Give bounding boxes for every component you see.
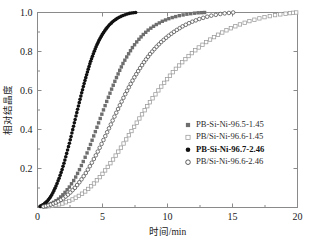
data-point: [227, 11, 231, 15]
data-point: [204, 40, 207, 43]
data-point: [121, 62, 124, 65]
data-point: [117, 150, 120, 153]
data-point: [74, 175, 77, 178]
legend-marker-filled-circle: [186, 148, 191, 153]
legend-label: PB/Si-Ni-96.6-1.45: [196, 131, 263, 141]
data-point: [174, 67, 177, 70]
legend-item-1[interactable]: PB-Si-Ni-96.5-1.45: [186, 119, 264, 129]
data-point: [100, 112, 103, 115]
data-point: [102, 108, 105, 111]
data-point: [78, 168, 81, 171]
legend-label: PB-Si-Ni-96.5-1.45: [196, 119, 264, 129]
data-point: [120, 100, 124, 104]
data-point: [203, 11, 206, 14]
data-point: [106, 165, 109, 168]
data-point: [80, 164, 83, 167]
y-tick-label: 0.2: [20, 163, 33, 174]
data-point: [88, 164, 92, 168]
data-point: [263, 15, 266, 18]
data-point: [146, 105, 149, 108]
data-point: [268, 14, 271, 17]
data-point: [61, 165, 65, 169]
data-point: [102, 138, 106, 142]
data-point: [194, 49, 197, 52]
data-point: [189, 12, 192, 15]
data-point: [103, 169, 106, 172]
data-point: [112, 84, 115, 87]
data-point: [214, 13, 218, 17]
y-tick-label: 0.4: [20, 124, 33, 135]
data-point: [157, 89, 160, 92]
data-point: [73, 121, 77, 125]
data-point: [168, 74, 171, 77]
data-point: [100, 142, 104, 146]
data-point: [90, 139, 93, 142]
data-point: [113, 115, 117, 119]
x-axis-title: 时间/min: [149, 226, 187, 237]
data-point: [83, 156, 86, 159]
data-point: [198, 17, 202, 21]
data-point: [90, 161, 94, 165]
y-axis-title: 相对结晶度: [2, 85, 13, 135]
data-point: [65, 152, 69, 156]
data-point: [114, 111, 118, 115]
data-point: [253, 18, 256, 21]
data-point: [69, 135, 73, 139]
chart-legend: PB-Si-Ni-96.5-1.45PB/Si-Ni-96.6-1.45PB-S…: [186, 119, 265, 166]
data-point: [107, 96, 110, 99]
data-point: [273, 13, 276, 16]
legend-label: PB-Si-Ni-96.7-2.46: [196, 144, 265, 154]
data-point: [216, 33, 219, 36]
data-point: [155, 23, 158, 26]
data-point: [60, 168, 64, 172]
data-point: [62, 161, 66, 165]
data-point: [79, 94, 83, 98]
data-point: [197, 46, 200, 49]
data-point: [229, 27, 232, 30]
data-point: [221, 31, 224, 34]
legend-item-2[interactable]: PB/Si-Ni-96.6-1.45: [186, 131, 263, 141]
data-point: [200, 11, 203, 14]
legend-marker-open-circle: [186, 160, 191, 165]
data-point: [82, 85, 86, 89]
data-point: [171, 16, 174, 19]
data-point: [191, 20, 195, 24]
x-tick-label: 5: [100, 211, 105, 222]
series-3: [38, 11, 137, 208]
data-point: [231, 11, 235, 15]
legend-item-3[interactable]: PB-Si-Ni-96.7-2.46: [186, 144, 265, 154]
data-point: [68, 199, 71, 202]
data-point: [174, 15, 177, 18]
legend-marker-open-square: [186, 135, 190, 139]
data-point: [118, 69, 121, 72]
data-point: [208, 38, 211, 41]
data-point: [70, 131, 74, 135]
data-point: [127, 134, 130, 137]
data-point: [75, 111, 79, 115]
data-point: [124, 138, 127, 141]
data-point: [122, 142, 125, 145]
legend-item-4[interactable]: PB/Si-Ni-96.6-2.46: [186, 156, 264, 166]
data-point: [103, 104, 106, 107]
data-point: [243, 21, 246, 24]
data-point: [97, 121, 100, 124]
data-point: [101, 172, 104, 175]
data-point: [143, 109, 146, 112]
data-point: [190, 51, 193, 54]
data-point: [248, 19, 251, 22]
data-point: [187, 54, 190, 57]
data-point: [113, 80, 116, 83]
y-tick-label: 1.0: [20, 7, 33, 18]
data-point: [99, 117, 102, 120]
data-point: [127, 86, 131, 90]
data-point: [70, 182, 73, 185]
x-tick-label: 0: [35, 211, 40, 222]
data-point: [103, 134, 107, 138]
legend-marker-filled-square: [186, 123, 190, 127]
data-point: [210, 14, 214, 18]
data-point: [111, 158, 114, 161]
data-point: [115, 76, 118, 79]
y-tick-label: 0.6: [20, 85, 33, 96]
data-point: [108, 91, 111, 94]
data-point: [205, 15, 209, 19]
